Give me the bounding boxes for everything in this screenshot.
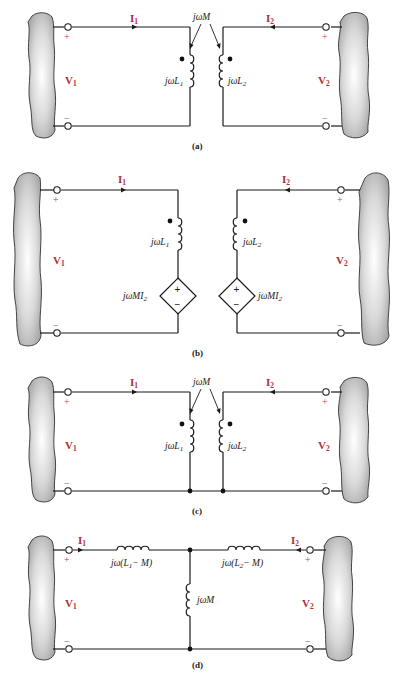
terminal [66, 547, 72, 553]
inductor-l2 [233, 218, 237, 250]
current-arrow-i1 [132, 390, 137, 395]
mutual-inductance-label: jωM [191, 12, 211, 22]
left-network-blob [28, 13, 56, 138]
inductor-label-l2: jωL2 [226, 441, 247, 453]
current-label-i2: I2 [282, 173, 290, 187]
current-arrow-i1 [121, 188, 126, 193]
junction-node [221, 489, 226, 494]
inductor-l1 [190, 55, 194, 87]
caption-d: (d) [192, 660, 203, 670]
polarity-dot [228, 422, 233, 427]
current-arrow-i2 [296, 548, 301, 553]
left-network-blob [28, 536, 56, 660]
voltage-label-v1: V1 [65, 74, 77, 88]
terminal [54, 187, 60, 193]
polarity-dot [228, 57, 233, 62]
right-network-blob [359, 173, 390, 345]
minus-sign: − [234, 299, 240, 310]
voltage-label-v1: V1 [65, 439, 77, 453]
series-left-label: jω(L1− M) [109, 558, 152, 570]
voltage-label-v2: V2 [302, 597, 314, 611]
voltage-label-v2: V2 [318, 439, 330, 453]
terminal [65, 24, 71, 30]
current-label-i1: I1 [118, 173, 126, 187]
polarity-dot [180, 422, 185, 427]
inductor-series-right [228, 546, 260, 550]
minus-sign: − [175, 299, 181, 310]
polarity-dot [180, 57, 185, 62]
inductor-label-l2: jωL2 [226, 76, 247, 88]
terminal [65, 389, 71, 395]
current-arrow-i1 [78, 548, 83, 553]
polarity-dot [243, 219, 248, 224]
current-label-i1: I1 [130, 12, 138, 26]
inductor-l1 [190, 420, 194, 452]
plus-sign: + [64, 554, 70, 565]
polarity-dot [168, 219, 173, 224]
minus-sign: − [64, 113, 70, 124]
inductor-l2 [219, 420, 223, 452]
minus-sign: − [64, 636, 70, 647]
inductor-series-left [117, 546, 149, 550]
junction-node [188, 489, 193, 494]
caption-c: (c) [192, 506, 202, 516]
current-label-i2: I2 [291, 534, 299, 548]
inductor-l1 [178, 218, 182, 250]
current-label-i2: I2 [266, 376, 274, 390]
current-label-i2: I2 [266, 12, 274, 26]
voltage-label-v2: V2 [336, 254, 348, 268]
right-network-blob [339, 12, 370, 138]
plus-sign: + [322, 31, 328, 42]
current-arrow-i2 [285, 188, 290, 193]
inductor-l2 [219, 55, 223, 87]
voltage-label-v1: V1 [65, 597, 77, 611]
caption-b: (b) [192, 348, 203, 358]
panel-b: + − + − I1 I2 + − + − V1 V2 jωL1 jωL2 jω… [14, 173, 390, 358]
current-label-i1: I1 [78, 534, 86, 548]
minus-sign: − [337, 320, 343, 331]
plus-sign: + [53, 194, 59, 205]
source-label-right: jωMI2 [256, 291, 282, 303]
junction-node [188, 548, 193, 553]
inductor-label-l1: jωL1 [149, 237, 169, 249]
panel-c: I1 I2 + − + − V1 V2 jωM jωL1 jωL2 (c) [28, 376, 370, 516]
right-network-blob [323, 536, 354, 661]
voltage-label-v1: V1 [53, 254, 65, 268]
plus-sign: + [64, 396, 70, 407]
terminal [307, 547, 313, 553]
plus-sign: + [175, 284, 181, 295]
terminal [323, 389, 329, 395]
minus-sign: − [53, 320, 59, 331]
junction-node [188, 647, 193, 652]
series-right-label: jω(L2− M) [220, 558, 263, 570]
panel-a: I1 I2 + − + − V1 V2 jωM jωL1 jωL2 (a) [28, 12, 370, 151]
plus-sign: + [322, 396, 328, 407]
current-arrow-i2 [270, 390, 275, 395]
coupled-inductor-figure: I1 I2 + − + − V1 V2 jωM jωL1 jωL2 (a) + … [0, 0, 394, 673]
minus-sign: − [322, 478, 328, 489]
right-network-blob [339, 377, 370, 503]
inductor-shunt [186, 584, 190, 616]
plus-sign: + [337, 194, 343, 205]
plus-sign: + [64, 31, 70, 42]
panel-d: I1 I2 + − + − V1 V2 jω(L1− M) jω(L2− M) … [28, 534, 354, 670]
plus-sign: + [234, 284, 240, 295]
inductor-label-l2: jωL2 [241, 237, 262, 249]
minus-sign: − [305, 636, 311, 647]
caption-a: (a) [192, 141, 203, 151]
left-network-blob [28, 377, 56, 502]
terminal [338, 187, 344, 193]
voltage-label-v2: V2 [318, 74, 330, 88]
minus-sign: − [322, 113, 328, 124]
terminal [323, 24, 329, 30]
mutual-inductance-label: jωM [191, 377, 211, 387]
inductor-label-l1: jωL1 [163, 441, 183, 453]
current-label-i1: I1 [130, 376, 138, 390]
minus-sign: − [64, 478, 70, 489]
left-network-blob [14, 173, 42, 346]
shunt-label: jωM [195, 595, 215, 605]
source-label-left: jωMI2 [121, 291, 147, 303]
plus-sign: + [305, 554, 311, 565]
inductor-label-l1: jωL1 [163, 76, 183, 88]
